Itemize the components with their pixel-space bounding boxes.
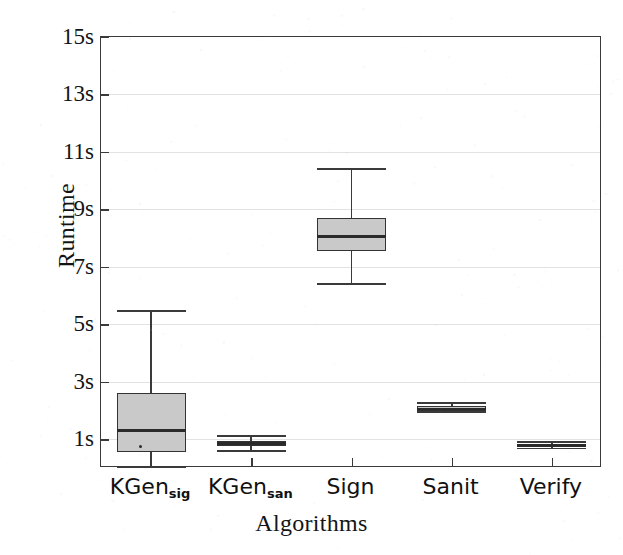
x-tick-label-sanit: Sanit bbox=[423, 474, 479, 499]
x-tick-label-verify: Verify bbox=[520, 474, 582, 499]
x-axis-label: Algorithms bbox=[0, 510, 623, 537]
x-axis-tick-labels: KGensigKGensanSignSanitVerify bbox=[0, 0, 623, 555]
x-tick-label-sign: Sign bbox=[327, 474, 375, 499]
x-tick-label-kgen-san: KGensan bbox=[208, 474, 293, 499]
box-plot-figure: Runtime 1s3s5s7s9s11s13s15s KGensigKGens… bbox=[0, 0, 623, 555]
x-tick-label-kgen-sig: KGensig bbox=[110, 474, 190, 499]
